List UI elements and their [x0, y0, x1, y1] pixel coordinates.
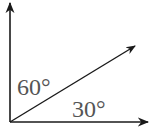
angle-diagram: 60° 30° [0, 0, 149, 133]
angle-label-60: 60° [17, 74, 51, 100]
angle-label-30: 30° [72, 96, 106, 122]
